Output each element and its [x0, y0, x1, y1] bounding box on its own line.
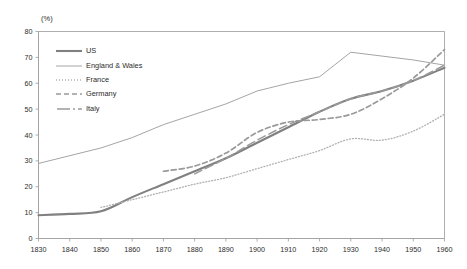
- y-tick-40: 40: [5, 131, 33, 140]
- x-tick-1920: 1920: [304, 245, 336, 254]
- legend-item-germany: Germany: [56, 87, 160, 101]
- legend-label: England & Wales: [86, 61, 142, 71]
- y-axis-unit-label: (%): [41, 14, 53, 23]
- x-tick-1930: 1930: [335, 245, 367, 254]
- legend-swatch-icon: [56, 61, 82, 71]
- legend-label: Germany: [86, 89, 116, 99]
- x-tick-1830: 1830: [23, 245, 55, 254]
- legend-swatch-icon: [56, 89, 82, 99]
- chart-legend: USEngland & WalesFranceGermanyItaly: [56, 44, 160, 116]
- x-tick-1910: 1910: [272, 245, 304, 254]
- x-tick-1850: 1850: [85, 245, 117, 254]
- legend-item-france: France: [56, 73, 160, 87]
- y-tick-20: 20: [5, 182, 33, 191]
- legend-swatch-icon: [56, 46, 82, 56]
- x-tick-1840: 1840: [54, 245, 86, 254]
- legend-label: France: [86, 75, 109, 85]
- legend-item-england-wales: England & Wales: [56, 58, 160, 72]
- x-tick-1870: 1870: [147, 245, 179, 254]
- x-tick-1900: 1900: [241, 245, 273, 254]
- y-tick-50: 50: [5, 105, 33, 114]
- y-tick-30: 30: [5, 156, 33, 165]
- y-tick-60: 60: [5, 79, 33, 88]
- y-tick-80: 80: [5, 27, 33, 36]
- x-tick-1860: 1860: [116, 245, 148, 254]
- legend-label: US: [86, 46, 96, 56]
- series-line-france: [101, 114, 445, 207]
- y-tick-0: 0: [5, 234, 33, 243]
- y-tick-10: 10: [5, 208, 33, 217]
- y-tick-70: 70: [5, 53, 33, 62]
- x-tick-1950: 1950: [397, 245, 429, 254]
- legend-swatch-icon: [56, 104, 82, 114]
- legend-swatch-icon: [56, 75, 82, 85]
- x-tick-1940: 1940: [366, 245, 398, 254]
- legend-label: Italy: [86, 104, 100, 114]
- x-tick-1880: 1880: [179, 245, 211, 254]
- legend-item-italy: Italy: [56, 102, 160, 116]
- x-tick-1890: 1890: [210, 245, 242, 254]
- chart-container: (%) 80706050403020100 183018401850186018…: [0, 0, 467, 269]
- x-tick-1960: 1960: [429, 245, 461, 254]
- line-chart-plot: [0, 0, 467, 269]
- legend-item-us: US: [56, 44, 160, 58]
